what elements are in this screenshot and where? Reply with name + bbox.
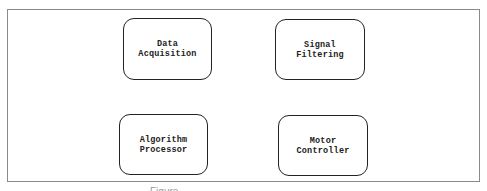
node-label-line: Processor <box>140 145 188 155</box>
node-label-line: Data <box>157 39 178 49</box>
node-label-line: Algorithm <box>140 135 188 145</box>
node-label-line: Acquisition <box>138 49 196 59</box>
node-algorithm-processor: Algorithm Processor <box>119 114 208 175</box>
node-motor-controller: Motor Controller <box>278 115 368 176</box>
node-label-line: Motor <box>310 136 337 146</box>
node-data-acquisition: Data Acquisition <box>123 18 212 80</box>
node-label-line: Filtering <box>296 50 344 60</box>
node-signal-filtering: Signal Filtering <box>275 19 365 80</box>
node-label-line: Controller <box>296 146 349 156</box>
node-label-line: Signal <box>304 40 336 50</box>
diagram-frame <box>7 9 480 182</box>
figure-caption: Figure <box>150 186 178 191</box>
